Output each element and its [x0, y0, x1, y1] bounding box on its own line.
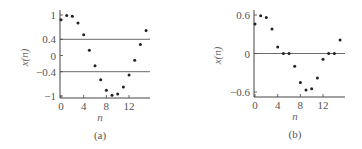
x-tick-label: 4: [81, 100, 87, 112]
y-tick-label: 0.6: [236, 9, 250, 21]
y-tick-label: −0.6: [230, 86, 250, 98]
data-point: [71, 15, 74, 18]
data-point: [88, 49, 91, 52]
y-tick-label: 1: [51, 9, 57, 21]
data-point: [116, 92, 119, 95]
data-point: [128, 73, 131, 76]
data-point: [293, 65, 296, 68]
data-point: [259, 14, 262, 17]
y-tick-label: 0: [245, 48, 251, 60]
data-point: [133, 59, 136, 62]
y-axis-label: x(n): [18, 48, 31, 67]
x-tick-label: 8: [298, 99, 304, 111]
data-point: [139, 43, 142, 46]
data-point: [333, 52, 336, 55]
figure: 10.40−0.4−104812x(n)n(a) 0.60−0.604812x(…: [0, 0, 362, 149]
x-tick-label: 0: [58, 100, 64, 112]
x-tick-label: 12: [318, 99, 329, 111]
x-tick-label: 8: [104, 100, 110, 112]
data-point: [60, 18, 63, 21]
x-axis-label: n: [292, 110, 298, 122]
y-tick-label: 0: [51, 50, 57, 62]
y-axis-label: x(n): [211, 46, 224, 65]
chart-panel-b: 0.60−0.604812x(n)n(b): [211, 9, 345, 141]
x-tick-label: 0: [252, 99, 258, 111]
data-point: [254, 22, 257, 25]
data-point: [271, 28, 274, 31]
data-point: [99, 78, 102, 81]
y-tick-label: 0.4: [42, 33, 56, 45]
panel-caption: (b): [289, 128, 302, 141]
data-point: [282, 52, 285, 55]
data-point: [265, 16, 268, 19]
data-point: [327, 52, 330, 55]
panel-caption: (a): [94, 129, 107, 142]
data-point: [111, 94, 114, 97]
data-point: [322, 58, 325, 61]
data-point: [94, 64, 97, 67]
data-point: [299, 81, 302, 84]
data-point: [288, 52, 291, 55]
data-point: [122, 86, 125, 89]
data-point: [77, 22, 80, 25]
data-point: [276, 46, 279, 49]
data-point: [310, 87, 313, 90]
data-point: [316, 76, 319, 79]
x-tick-label: 12: [124, 100, 135, 112]
y-tick-label: −0.4: [36, 66, 56, 78]
x-axis-label: n: [97, 111, 103, 123]
data-point: [65, 14, 68, 17]
x-tick-label: 4: [275, 99, 281, 111]
data-point: [105, 89, 108, 92]
y-tick-label: −1: [44, 90, 56, 102]
chart-panel-a: 10.40−0.4−104812x(n)n(a): [18, 9, 150, 142]
data-point: [305, 89, 308, 92]
data-point: [145, 29, 148, 32]
data-point: [339, 39, 342, 42]
data-point: [82, 33, 85, 36]
